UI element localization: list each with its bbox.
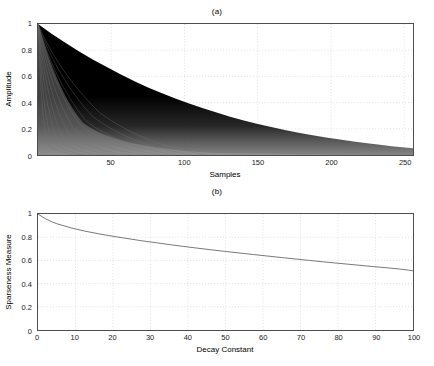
- panel-a-xtick-150: 150: [252, 158, 265, 167]
- panel-a-xtick-200: 200: [325, 158, 338, 167]
- panel-b-ytick-1: 0.2: [12, 303, 32, 312]
- panel-b-xtick-40: 40: [184, 333, 192, 342]
- panel-b-xtick-10: 10: [71, 333, 79, 342]
- panel-a-xtick-250: 250: [399, 158, 412, 167]
- panel-a-xtick-100: 100: [178, 158, 191, 167]
- panel-a-xtick-50: 50: [106, 158, 114, 167]
- panel-b-ylabel: Sparseness Measure: [4, 222, 13, 322]
- panel-b-xtick-70: 70: [297, 333, 305, 342]
- panel-b-plot-area: [37, 213, 414, 331]
- panel-b: (b): [0, 185, 434, 366]
- panel-b-ytick-0: 0: [12, 327, 32, 336]
- panel-a-ytick-5: 1: [12, 19, 32, 28]
- panel-b-title: (b): [0, 187, 434, 196]
- figure-canvas: (a): [0, 0, 434, 366]
- panel-b-xtick-50: 50: [221, 333, 229, 342]
- panel-b-xtick-30: 30: [146, 333, 154, 342]
- panel-b-xtick-60: 60: [259, 333, 267, 342]
- panel-b-xtick-80: 80: [334, 333, 342, 342]
- panel-a-ytick-2: 0.4: [12, 98, 32, 107]
- panel-a-ytick-4: 0.8: [12, 45, 32, 54]
- panel-b-ytick-3: 0.6: [12, 256, 32, 265]
- panel-a: (a): [0, 0, 434, 185]
- panel-a-ylabel: Amplitude: [4, 59, 13, 119]
- panel-b-xtick-0: 0: [35, 333, 39, 342]
- panel-b-xtick-90: 90: [372, 333, 380, 342]
- panel-b-ytick-2: 0.4: [12, 279, 32, 288]
- panel-a-ytick-1: 0.2: [12, 125, 32, 134]
- panel-a-title: (a): [0, 7, 434, 16]
- panel-b-xlabel: Decay Constant: [197, 345, 254, 354]
- panel-b-ytick-4: 0.8: [12, 232, 32, 241]
- panel-a-plot-area: [37, 23, 414, 156]
- panel-b-xtick-20: 20: [108, 333, 116, 342]
- panel-a-xlabel: Samples: [209, 170, 240, 179]
- panel-b-ytick-5: 1: [12, 209, 32, 218]
- panel-a-ytick-3: 0.6: [12, 72, 32, 81]
- panel-b-xtick-100: 100: [408, 333, 421, 342]
- panel-a-curves: [38, 24, 413, 155]
- panel-b-curve: [38, 214, 413, 330]
- panel-b-gridlines: [38, 214, 413, 330]
- panel-a-ytick-0: 0: [12, 152, 32, 161]
- panel-b-sparseness-line: [38, 214, 413, 271]
